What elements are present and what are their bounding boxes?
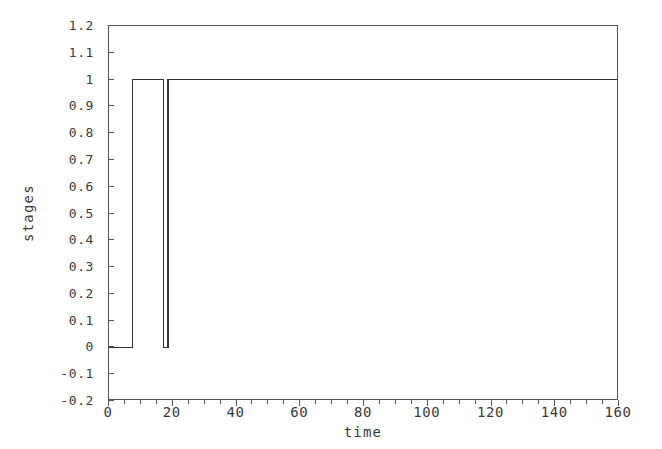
x-axis-tick-label: 40 [226, 404, 244, 420]
y-axis-tick-label: 0 [86, 339, 94, 354]
series-polyline [109, 80, 617, 348]
x-axis-tick-label: 60 [290, 404, 308, 420]
x-axis-tick-label: 160 [604, 404, 631, 420]
x-axis-tick-label: 140 [541, 404, 568, 420]
y-axis-tick-label: 1 [86, 71, 94, 86]
y-axis-tick-label: -0.1 [60, 366, 94, 381]
y-axis-tick-label: 0.5 [69, 205, 94, 220]
x-axis-title: time [108, 424, 618, 440]
y-axis-tick-label: 1.1 [69, 44, 94, 59]
x-axis-tick-label: 0 [103, 404, 112, 420]
y-axis-tick-label: -0.2 [60, 393, 94, 408]
y-axis-tick-label: 0.1 [69, 312, 94, 327]
y-axis-tick-label: 0.6 [69, 178, 94, 193]
x-axis-tick-label: 80 [354, 404, 372, 420]
y-axis-tick-label: 0.3 [69, 259, 94, 274]
y-axis-tick-label: 1.2 [69, 18, 94, 33]
x-axis-tick-label: 120 [477, 404, 504, 420]
x-axis-tick-label: 100 [413, 404, 440, 420]
y-axis-tick-label: 0.4 [69, 232, 94, 247]
x-axis-tick-label: 20 [163, 404, 181, 420]
x-axis-tick-labels: 020406080100120140160 [108, 404, 618, 426]
y-axis-tick-label: 0.7 [69, 151, 94, 166]
y-axis-tick-label: 0.9 [69, 98, 94, 113]
y-axis-tick-labels: -0.2-0.100.10.20.30.40.50.60.70.80.911.1… [0, 25, 102, 400]
plot-area [108, 25, 618, 400]
y-axis-tick-label: 0.2 [69, 285, 94, 300]
y-axis-tick-label: 0.8 [69, 125, 94, 140]
chart-page: stages -0.2-0.100.10.20.30.40.50.60.70.8… [0, 0, 662, 449]
plot-inner [109, 26, 617, 399]
data-series-line [109, 26, 617, 399]
